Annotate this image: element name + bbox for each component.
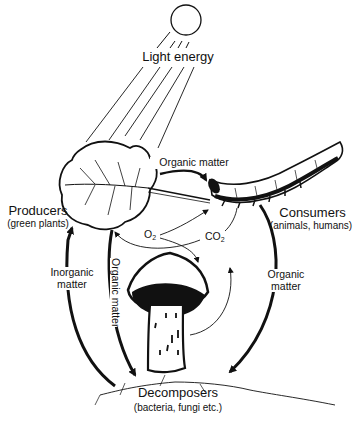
consumers-subtitle: (animals, humans) bbox=[266, 220, 355, 231]
organic-matter-top-label: Organic matter bbox=[150, 157, 238, 169]
arrow-o2 bbox=[160, 210, 208, 235]
leaf-icon bbox=[60, 142, 210, 230]
decomposers-title: Decomposers bbox=[118, 386, 238, 400]
sun-icon bbox=[157, 5, 201, 48]
co2-label: CO2 bbox=[205, 231, 225, 244]
o2-label: O2 bbox=[144, 229, 156, 242]
arrow-producers-to-consumers bbox=[160, 171, 206, 180]
inorganic-matter-line1: Inorganic bbox=[42, 267, 102, 279]
o2-subscript: 2 bbox=[152, 234, 156, 241]
co2-text: CO bbox=[205, 230, 221, 242]
arrow-inorganic-matter bbox=[67, 228, 115, 386]
caterpillar-icon bbox=[206, 142, 343, 208]
o2-text: O bbox=[144, 228, 152, 240]
organic-matter-right-line2: matter bbox=[256, 281, 316, 293]
ecosystem-cycle-diagram: Light energy Organic matter Producers (g… bbox=[0, 0, 355, 422]
inorganic-matter-label: Inorganic matter bbox=[42, 267, 102, 290]
organic-matter-right-line1: Organic bbox=[256, 269, 316, 281]
light-beams bbox=[86, 67, 194, 148]
arrow-co2 bbox=[115, 232, 200, 248]
decomposers-subtitle: (bacteria, fungi etc.) bbox=[108, 402, 248, 413]
light-energy-label: Light energy bbox=[128, 50, 228, 64]
producers-subtitle: (green plants) bbox=[0, 218, 76, 229]
organic-matter-vertical-label: Organic matter bbox=[110, 258, 122, 327]
consumers-title: Consumers bbox=[270, 206, 355, 220]
organic-matter-right-label: Organic matter bbox=[256, 269, 316, 292]
producers-title: Producers bbox=[0, 204, 76, 218]
mushroom-icon bbox=[128, 253, 208, 372]
co2-subscript: 2 bbox=[221, 236, 225, 243]
inorganic-matter-line2: matter bbox=[42, 279, 102, 291]
line-co2-consumers bbox=[224, 208, 237, 232]
